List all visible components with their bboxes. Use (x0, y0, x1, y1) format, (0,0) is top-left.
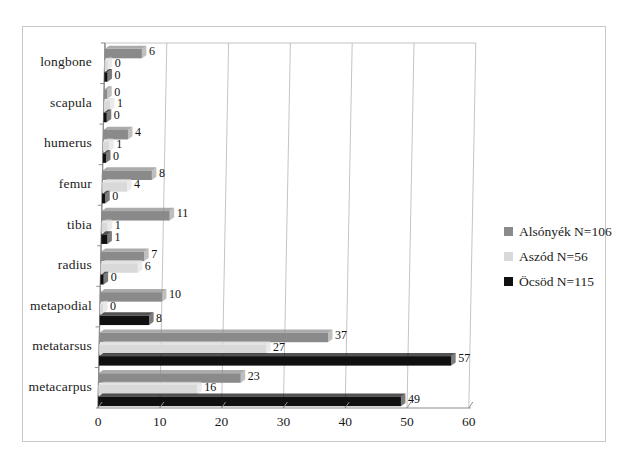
bar (102, 191, 110, 204)
x-axis-tick-label: 30 (263, 414, 303, 430)
bar-value-label: 11 (177, 207, 189, 219)
y-axis-category-label: scapula (20, 95, 92, 111)
x-axis-tick-label: 0 (78, 414, 118, 430)
bar-value-label: 23 (248, 370, 260, 382)
x-axis-tick-label: 20 (202, 414, 242, 430)
bar-value-label: 1 (114, 231, 120, 243)
bar (99, 353, 456, 366)
y-axis-category-label: longbone (20, 54, 92, 70)
x-tick (469, 402, 473, 408)
y-axis-category-label: metapodial (20, 298, 92, 314)
bar (101, 248, 149, 261)
x-axis-tick-label: 10 (140, 414, 180, 430)
y-axis-category-label: metacarpus (20, 379, 92, 395)
bar (102, 208, 174, 221)
legend-label: Alsónyék N=106 (519, 224, 612, 240)
legend-swatch-icon (504, 227, 513, 236)
bar-value-label: 6 (145, 260, 151, 272)
bar (101, 260, 143, 273)
bar (104, 86, 112, 99)
bar (98, 382, 201, 395)
bar-value-label: 0 (110, 300, 116, 312)
bar (104, 69, 112, 82)
bar-value-label: 37 (335, 329, 347, 341)
bar-value-label: 0 (114, 109, 120, 121)
bar (102, 167, 156, 180)
y-axis-category-label: metatarsus (20, 338, 92, 354)
legend-item[interactable]: Alsónyék N=106 (504, 219, 617, 244)
bar (98, 393, 405, 406)
x-axis-tick-label: 40 (325, 414, 365, 430)
chart-frame: 600longbone010scapula410humerus840femur1… (22, 26, 606, 442)
bar (100, 272, 108, 285)
chart-legend: Alsónyék N=106Aszód N=56Öcsöd N=115 (504, 219, 617, 294)
bar-value-label: 27 (273, 341, 285, 353)
bar-value-label: 8 (159, 167, 165, 179)
legend-label: Öcsöd N=115 (519, 274, 594, 290)
x-axis-tick-label: 50 (387, 414, 427, 430)
bar-value-label: 4 (135, 126, 141, 138)
bar (104, 110, 112, 123)
y-axis-category-label: humerus (20, 135, 92, 151)
bar (101, 231, 112, 244)
bar-value-label: 0 (115, 69, 121, 81)
bar (99, 341, 270, 354)
bar-value-label: 4 (134, 178, 140, 190)
bar (105, 57, 113, 70)
bar-value-label: 6 (149, 45, 155, 57)
y-axis-category-label: tibia (20, 217, 92, 233)
bar-value-label: 16 (204, 381, 216, 393)
y-axis-category-label: femur (20, 176, 92, 192)
cut-off-text-above-figure (0, 0, 617, 12)
bar-value-label: 0 (112, 190, 118, 202)
bar-value-label: 8 (156, 312, 162, 324)
bar-value-label: 0 (113, 150, 119, 162)
legend-label: Aszód N=56 (519, 249, 588, 265)
bar (100, 301, 108, 314)
bar (103, 150, 111, 163)
bar-value-label: 0 (115, 57, 121, 69)
legend-item[interactable]: Aszód N=56 (504, 244, 617, 269)
bar-value-label: 49 (408, 393, 420, 405)
legend-swatch-icon (504, 252, 513, 261)
bar-value-label: 7 (151, 248, 157, 260)
bar-value-label: 10 (169, 288, 181, 300)
bar (101, 220, 112, 233)
bar (100, 312, 154, 325)
y-axis-category-label: radius (20, 257, 92, 273)
bar-value-label: 0 (111, 271, 117, 283)
bar (105, 46, 147, 59)
bar-value-label: 57 (458, 352, 470, 364)
x-axis-tick-label: 60 (449, 414, 489, 430)
bar (99, 370, 246, 383)
bar (99, 330, 332, 343)
legend-swatch-icon (504, 277, 513, 286)
legend-item[interactable]: Öcsöd N=115 (504, 269, 617, 294)
